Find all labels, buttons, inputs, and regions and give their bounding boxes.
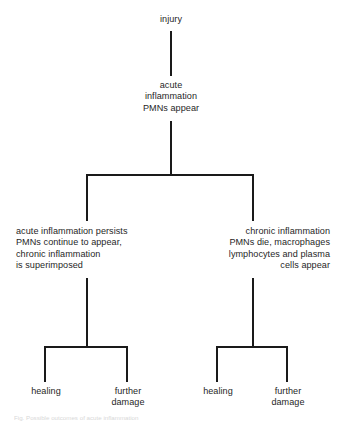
node-acute-inflammation-pmns-appear: acute inflammation PMNs appear [121,80,221,114]
node-healing-left: healing [20,386,72,397]
node-further-damage-left: further damage [100,386,156,409]
node-healing-right: healing [192,386,244,397]
node-acute-inflammation-persists: acute inflammation persists PMNs continu… [16,226,181,271]
figure-caption: Fig. Possible outcomes of acute inflamma… [14,414,334,422]
flowchart-diagram: injury acute inflammation PMNs appear ac… [0,0,344,426]
node-injury: injury [131,14,211,25]
node-further-damage-right: further damage [260,386,316,409]
node-chronic-inflammation: chronic inflammation PMNs die, macrophag… [166,226,330,271]
tree-connector-lines [0,0,344,426]
